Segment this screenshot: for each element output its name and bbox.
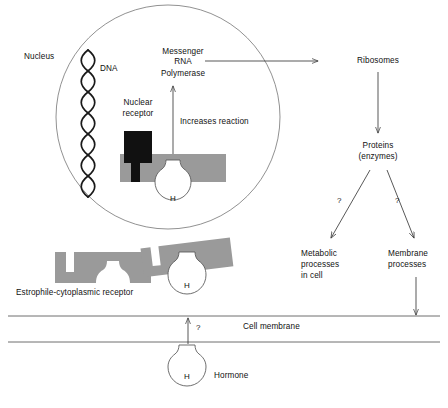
nuclear-receptor-label-line1: Nuclear — [124, 98, 153, 109]
membrane-processes-label-line1: Membrane — [388, 249, 428, 260]
bound-hormone-symbol: H — [184, 281, 190, 290]
metabolic-label-line3: in cell — [301, 271, 323, 282]
free-cytoplasmic-receptor-shape — [55, 252, 151, 283]
ribosomes-label: Ribosomes — [357, 56, 399, 67]
messenger-label: Messenger — [162, 47, 203, 58]
membrane-transit-question-mark: ? — [196, 323, 201, 334]
polymerase-label: Polymerase — [161, 69, 205, 80]
hormone-label: Hormone — [214, 371, 248, 382]
proteins-to-membrane-arrow — [387, 170, 414, 238]
diagram-canvas: Nucleus DNA Messenger RNA Polymerase Nuc… — [0, 0, 448, 408]
membrane-branch-question-mark: ? — [395, 196, 400, 207]
dna-label: DNA — [100, 64, 118, 75]
proteins-label-line1: Proteins — [363, 141, 394, 152]
metabolic-label-line1: Metabolic — [301, 249, 337, 260]
nuclear-hormone-symbol: H — [170, 194, 176, 203]
dna-helix-icon — [81, 50, 95, 197]
cell-membrane-label: Cell membrane — [243, 322, 300, 333]
membrane-processes-label-line2: processes — [388, 260, 426, 271]
nucleus-label: Nucleus — [24, 52, 54, 63]
metabolic-branch-question-mark: ? — [337, 196, 342, 207]
extracellular-hormone-symbol: H — [184, 372, 190, 381]
metabolic-label-line2: processes — [301, 260, 339, 271]
proteins-label-line2: (enzymes) — [358, 152, 397, 163]
nuclear-receptor-label-line2: receptor — [123, 109, 154, 120]
increases-reaction-label: Increases reaction — [180, 117, 249, 128]
cytoplasmic-receptor-label: Estrophile-cytoplasmic receptor — [16, 288, 133, 299]
rna-label: RNA — [174, 57, 192, 68]
